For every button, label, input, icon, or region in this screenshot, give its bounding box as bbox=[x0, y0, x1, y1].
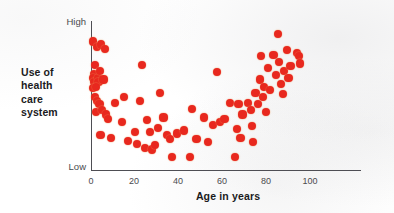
scatter-point bbox=[251, 89, 259, 97]
scatter-point bbox=[99, 75, 107, 83]
scatter-point bbox=[97, 40, 105, 48]
scatter-point bbox=[173, 129, 181, 137]
scatter-point bbox=[151, 141, 159, 149]
x-tick-label-100: 100 bbox=[296, 176, 324, 186]
scatter-point bbox=[141, 144, 149, 152]
scatter-point bbox=[254, 100, 262, 108]
scatter-point bbox=[262, 108, 270, 116]
scatter-point bbox=[249, 138, 257, 146]
scatter-point bbox=[94, 78, 102, 86]
scatter-point bbox=[226, 99, 234, 107]
scatter-point bbox=[94, 74, 102, 82]
scatter-point bbox=[277, 80, 285, 88]
scatter-point bbox=[213, 68, 221, 76]
scatter-point bbox=[92, 83, 100, 91]
scatter-point bbox=[111, 99, 119, 107]
y-axis-label-line-1: Use of bbox=[21, 66, 83, 79]
scatter-point bbox=[96, 67, 104, 75]
scatter-point bbox=[231, 153, 239, 161]
scatter-point bbox=[92, 108, 100, 116]
scatter-point bbox=[293, 49, 301, 57]
scatter-point bbox=[131, 128, 139, 136]
y-axis-label: Use of health care system bbox=[21, 66, 83, 120]
scatter-point bbox=[280, 67, 288, 75]
scatter-point bbox=[247, 106, 255, 114]
scatter-chart-figure: Use of health care system High Low 0 20 … bbox=[0, 0, 394, 213]
scatter-point bbox=[156, 89, 164, 97]
scatter-point bbox=[98, 106, 106, 114]
y-axis-low-label: Low bbox=[46, 161, 86, 172]
y-axis-line bbox=[91, 21, 92, 171]
scatter-point bbox=[236, 134, 244, 142]
x-tick-label-60: 60 bbox=[208, 176, 236, 186]
scatter-point bbox=[118, 118, 126, 126]
scatter-point bbox=[234, 100, 242, 108]
x-tick-label-80: 80 bbox=[252, 176, 280, 186]
scatter-point bbox=[101, 45, 109, 53]
scatter-point bbox=[204, 138, 212, 146]
scatter-point bbox=[120, 93, 128, 101]
scatter-point bbox=[264, 64, 272, 72]
x-axis-label: Age in years bbox=[196, 190, 260, 202]
scatter-point bbox=[96, 131, 104, 139]
scatter-point bbox=[286, 62, 294, 70]
scatter-point bbox=[136, 97, 144, 105]
scatter-point bbox=[154, 124, 162, 132]
scatter-point bbox=[143, 116, 151, 124]
x-tick-label-0: 0 bbox=[77, 176, 105, 186]
scatter-point bbox=[93, 97, 101, 105]
scatter-point bbox=[159, 113, 167, 121]
scatter-point bbox=[275, 58, 283, 66]
scatter-point bbox=[233, 125, 241, 133]
x-tick-label-20: 20 bbox=[120, 176, 148, 186]
scatter-point bbox=[166, 135, 174, 143]
scatter-point bbox=[146, 128, 154, 136]
x-axis-label-container: Age in years bbox=[0, 190, 394, 202]
scatter-point bbox=[274, 30, 282, 38]
scatter-point bbox=[209, 121, 217, 129]
scatter-point bbox=[180, 126, 188, 134]
scatter-point bbox=[295, 52, 303, 60]
scatter-point bbox=[102, 110, 110, 118]
scatter-point bbox=[259, 93, 267, 101]
scatter-point bbox=[296, 59, 304, 67]
scatter-point bbox=[124, 137, 132, 145]
scatter-point bbox=[272, 71, 280, 79]
scatter-point bbox=[91, 93, 99, 101]
scatter-point bbox=[148, 145, 156, 153]
scatter-point bbox=[163, 131, 171, 139]
scatter-point bbox=[284, 74, 292, 82]
scatter-point bbox=[200, 113, 208, 121]
scatter-point bbox=[89, 84, 97, 92]
scatter-point bbox=[95, 100, 103, 108]
scatter-point bbox=[256, 75, 264, 83]
scatter-point bbox=[238, 110, 246, 118]
scatter-point bbox=[133, 140, 141, 148]
scatter-point bbox=[248, 122, 256, 130]
scatter-point bbox=[260, 83, 268, 91]
x-axis-line bbox=[91, 170, 361, 171]
y-axis-label-line-4: system bbox=[21, 106, 83, 119]
scatter-point bbox=[216, 118, 224, 126]
scatter-point bbox=[188, 105, 196, 113]
x-tick-label-40: 40 bbox=[164, 176, 192, 186]
scatter-point bbox=[186, 153, 194, 161]
scatter-point bbox=[93, 43, 101, 51]
scatter-point bbox=[192, 135, 200, 143]
scatter-point bbox=[220, 115, 228, 123]
scatter-point bbox=[283, 46, 291, 54]
y-axis-label-line-3: care bbox=[21, 93, 83, 106]
scatter-point bbox=[168, 153, 176, 161]
scatter-point bbox=[269, 51, 277, 59]
scatter-point bbox=[138, 61, 146, 69]
scatter-point bbox=[279, 90, 287, 98]
y-axis-label-line-2: health bbox=[21, 79, 83, 92]
scatter-point bbox=[266, 86, 274, 94]
scatter-point bbox=[104, 115, 112, 123]
scatter-point bbox=[244, 99, 252, 107]
y-axis-high-label: High bbox=[46, 16, 86, 27]
scatter-point bbox=[257, 52, 265, 60]
scatter-point bbox=[107, 134, 115, 142]
